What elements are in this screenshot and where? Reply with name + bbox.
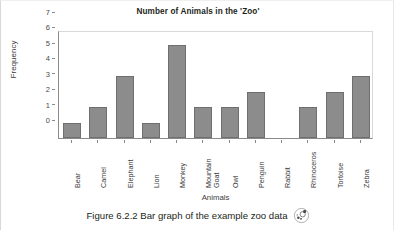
bar-series bbox=[59, 32, 372, 138]
x-axis-title: Animals bbox=[58, 193, 373, 202]
x-axis-tick-mark bbox=[334, 140, 335, 143]
y-axis-tick-label: 2 bbox=[46, 85, 50, 94]
y-axis-tick-label: 7 bbox=[46, 8, 50, 17]
y-axis-tick-mark bbox=[52, 73, 55, 74]
y-axis-tick: 6 bbox=[46, 18, 59, 36]
x-axis-tick-label: Lion bbox=[153, 136, 161, 188]
x-axis-tick-mark bbox=[360, 140, 361, 143]
bar[interactable] bbox=[116, 76, 134, 138]
y-axis-tick-label: 3 bbox=[46, 70, 50, 79]
x-axis-tick-mark bbox=[124, 140, 125, 143]
bar[interactable] bbox=[89, 107, 107, 138]
y-axis-tick: 4 bbox=[46, 49, 59, 67]
x-axis-tick-label: Penguin bbox=[258, 136, 266, 188]
dice-disc-icon bbox=[293, 207, 310, 224]
x-axis-tick-mark bbox=[229, 140, 230, 143]
x-axis-tick-label: Rhinoceros bbox=[310, 136, 318, 188]
figure-caption: Figure 6.2.2 Bar graph of the example zo… bbox=[1, 207, 394, 224]
x-axis-tick-label: Mountain Goat bbox=[205, 136, 220, 188]
bar[interactable] bbox=[299, 107, 317, 138]
x-axis-tick-label: Tortoise bbox=[337, 136, 345, 188]
bar[interactable] bbox=[352, 76, 370, 138]
x-axis-ticks-and-labels: BearCamelElephantLionMonkeyMountain Goat… bbox=[58, 140, 373, 192]
x-axis-tick-label: Owl bbox=[232, 136, 240, 188]
y-axis-tick: 3 bbox=[46, 65, 59, 83]
y-axis-tick-mark bbox=[52, 104, 55, 105]
y-axis-tick-label: 5 bbox=[46, 39, 50, 48]
chart-title: Number of Animals in the 'Zoo' bbox=[1, 7, 394, 16]
x-axis-tick-label: Monkey bbox=[179, 136, 187, 188]
y-axis-tick: 2 bbox=[46, 80, 59, 98]
plot-area: 01234567 bbox=[58, 31, 373, 139]
x-axis-tick-label: Rabbit bbox=[284, 136, 292, 188]
x-axis-tick-mark bbox=[281, 140, 282, 143]
y-axis-tick-label: 6 bbox=[46, 24, 50, 33]
y-axis-tick-label: 4 bbox=[46, 55, 50, 64]
bar[interactable] bbox=[221, 107, 239, 138]
y-axis-tick: 0 bbox=[46, 111, 59, 129]
y-axis-tick-mark bbox=[52, 27, 55, 28]
bar[interactable] bbox=[326, 92, 344, 138]
x-axis-tick-label: Camel bbox=[100, 136, 108, 188]
x-axis-tick-mark bbox=[150, 140, 151, 143]
y-axis-tick-mark bbox=[52, 120, 55, 121]
bar[interactable] bbox=[168, 45, 186, 138]
x-axis-tick-mark bbox=[255, 140, 256, 143]
x-axis-tick-label: Bear bbox=[74, 136, 82, 188]
y-axis-tick: 5 bbox=[46, 34, 59, 52]
y-axis-title: Frequency bbox=[9, 30, 18, 90]
y-axis-tick: 1 bbox=[46, 96, 59, 114]
x-axis-tick-mark bbox=[71, 140, 72, 143]
figure-page: Number of Animals in the 'Zoo' Frequency… bbox=[0, 0, 394, 230]
y-axis-tick-label: 0 bbox=[46, 116, 50, 125]
y-axis-tick-mark bbox=[52, 89, 55, 90]
x-axis-tick-mark bbox=[307, 140, 308, 143]
y-axis-tick-mark bbox=[52, 12, 55, 13]
bar[interactable] bbox=[194, 107, 212, 138]
x-axis-tick-mark bbox=[202, 140, 203, 143]
x-axis-tick-mark bbox=[97, 140, 98, 143]
y-axis-tick-mark bbox=[52, 43, 55, 44]
y-axis-tick-mark bbox=[52, 58, 55, 59]
y-axis-tick: 7 bbox=[46, 3, 59, 21]
caption-text: Figure 6.2.2 Bar graph of the example zo… bbox=[86, 210, 287, 221]
x-axis-tick-label: Elephant bbox=[127, 136, 135, 188]
bar[interactable] bbox=[247, 92, 265, 138]
y-axis-tick-label: 1 bbox=[46, 101, 50, 110]
x-axis-tick-mark bbox=[176, 140, 177, 143]
x-axis-tick-label: Zebra bbox=[363, 136, 371, 188]
